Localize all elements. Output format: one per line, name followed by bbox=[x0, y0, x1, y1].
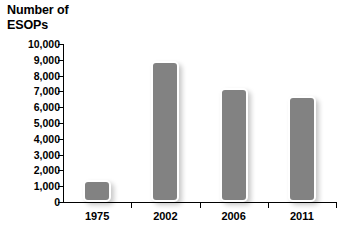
bar bbox=[220, 88, 248, 202]
y-axis-tick-label: 2,000 bbox=[34, 165, 60, 175]
y-axis-tick-label: 8,000 bbox=[34, 71, 60, 81]
y-axis-tick-label: 9,000 bbox=[34, 55, 60, 65]
chart-screenshot: Number of ESOPs 10,0009,0008,0007,0006,0… bbox=[0, 0, 350, 231]
x-axis-tick bbox=[131, 202, 132, 208]
x-axis-tick bbox=[336, 202, 337, 208]
y-axis-tick-label: 1,000 bbox=[34, 181, 60, 191]
y-axis-tick-label: 10,000 bbox=[28, 39, 60, 49]
y-axis-tick-label: 0 bbox=[54, 197, 60, 207]
y-axis-tick-label: 4,000 bbox=[34, 134, 60, 144]
x-axis-tick-label: 2011 bbox=[272, 210, 332, 223]
plot-area: 10,0009,0008,0007,0006,0005,0004,0003,00… bbox=[0, 0, 350, 231]
bar bbox=[288, 96, 316, 202]
x-axis-tick bbox=[200, 202, 201, 208]
y-axis-tick-label: 3,000 bbox=[34, 150, 60, 160]
bar bbox=[83, 180, 111, 202]
bar bbox=[151, 61, 179, 202]
y-axis-tick-label: 6,000 bbox=[34, 102, 60, 112]
y-axis-tick-label: 7,000 bbox=[34, 86, 60, 96]
x-axis-tick-label: 1975 bbox=[67, 210, 127, 223]
x-axis-tick-label: 2006 bbox=[204, 210, 264, 223]
x-axis-tick-label: 2002 bbox=[135, 210, 195, 223]
y-axis-tick-label: 5,000 bbox=[34, 118, 60, 128]
x-axis-tick bbox=[268, 202, 269, 208]
